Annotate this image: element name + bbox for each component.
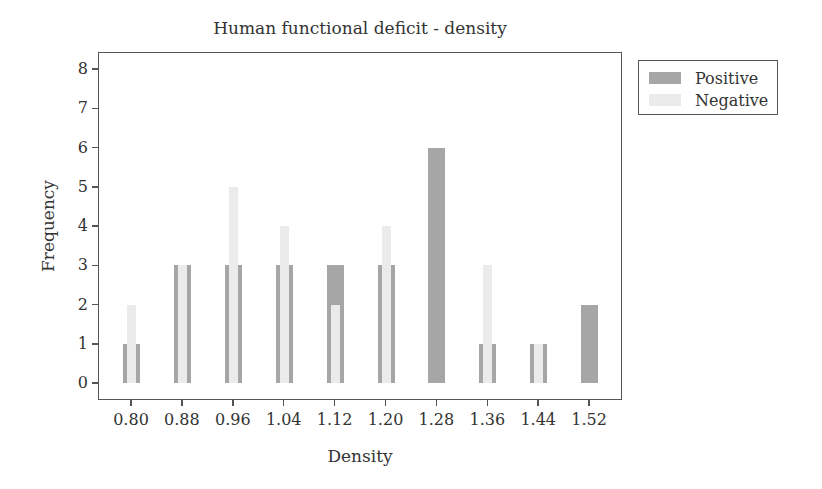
x-tick-label: 1.20 <box>361 410 411 429</box>
y-tick-label: 5 <box>66 177 88 196</box>
x-axis-title: Density <box>98 446 622 466</box>
y-tick <box>92 382 98 384</box>
bar-negative <box>382 226 391 383</box>
y-tick-label: 2 <box>66 295 88 314</box>
bar-negative <box>331 305 340 384</box>
x-tick <box>436 400 438 406</box>
bar-negative <box>483 265 492 383</box>
y-tick-label: 8 <box>66 59 88 78</box>
x-tick-label: 0.88 <box>157 410 207 429</box>
x-tick-label: 1.36 <box>462 410 512 429</box>
y-tick <box>92 225 98 227</box>
bar-positive <box>581 305 598 384</box>
x-tick <box>537 400 539 406</box>
bar-negative <box>229 187 238 383</box>
x-tick-label: 1.04 <box>259 410 309 429</box>
legend-item-positive: Positive <box>649 67 758 89</box>
x-tick <box>588 400 590 406</box>
bar-negative <box>534 344 543 383</box>
legend-label-positive: Positive <box>695 69 758 88</box>
chart-title: Human functional deficit - density <box>98 18 622 38</box>
y-tick <box>92 304 98 306</box>
y-tick-label: 6 <box>66 138 88 157</box>
bar-negative <box>280 226 289 383</box>
x-tick <box>385 400 387 406</box>
x-tick-label: 1.12 <box>310 410 360 429</box>
x-tick-label: 0.80 <box>106 410 156 429</box>
legend: Positive Negative <box>638 60 778 115</box>
y-tick-label: 0 <box>66 373 88 392</box>
x-tick-label: 1.52 <box>564 410 614 429</box>
x-tick-label: 0.96 <box>208 410 258 429</box>
bar-positive <box>428 148 445 384</box>
y-tick <box>92 147 98 149</box>
y-tick <box>92 186 98 188</box>
positive-swatch-icon <box>649 72 681 84</box>
y-tick <box>92 265 98 267</box>
x-tick <box>334 400 336 406</box>
x-tick <box>130 400 132 406</box>
bar-negative <box>127 305 136 384</box>
x-tick <box>181 400 183 406</box>
y-tick-label: 1 <box>66 334 88 353</box>
y-tick <box>92 343 98 345</box>
x-tick <box>487 400 489 406</box>
y-axis-title: Frequency <box>38 180 58 272</box>
legend-item-negative: Negative <box>649 89 768 111</box>
x-tick <box>232 400 234 406</box>
y-tick-label: 4 <box>66 216 88 235</box>
y-tick-label: 3 <box>66 255 88 274</box>
y-tick-label: 7 <box>66 98 88 117</box>
x-tick-label: 1.28 <box>411 410 461 429</box>
bar-negative <box>178 265 187 383</box>
x-tick-label: 1.44 <box>513 410 563 429</box>
negative-swatch-icon <box>649 94 681 106</box>
y-tick <box>92 68 98 70</box>
y-tick <box>92 108 98 110</box>
x-tick <box>283 400 285 406</box>
legend-label-negative: Negative <box>695 91 768 110</box>
